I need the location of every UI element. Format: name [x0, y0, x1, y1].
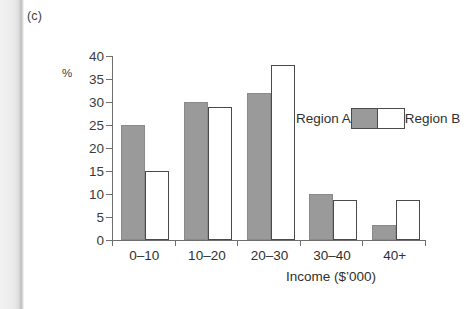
bar-region-b-2 — [271, 65, 295, 240]
bar-series-container — [113, 56, 425, 240]
y-tick-label: 10 — [89, 187, 104, 202]
bar-region-b-3 — [333, 200, 357, 240]
x-tick-label-1: 10–20 — [188, 248, 226, 263]
y-tick-mark — [106, 217, 112, 218]
y-tick-mark — [106, 56, 112, 57]
bar-region-b-4 — [396, 200, 420, 240]
legend-swatch-region-b — [378, 108, 405, 129]
bar-region-a-1 — [184, 102, 208, 240]
bar-region-a-2 — [247, 93, 271, 240]
y-tick-label: 25 — [89, 118, 104, 133]
x-tick-mark — [175, 240, 176, 246]
legend-label-region-b: Region B — [405, 111, 461, 126]
bar-chart-figure: (c) % 0510152025303540 0–1010–2020–3030–… — [0, 0, 471, 309]
x-tick-mark — [237, 240, 238, 246]
x-tick-label-0: 0–10 — [129, 248, 159, 263]
bar-group — [184, 56, 232, 240]
y-tick-label: 30 — [89, 95, 104, 110]
x-tick-label-3: 30–40 — [313, 248, 351, 263]
y-tick-label: 40 — [89, 49, 104, 64]
y-tick-label: 0 — [96, 233, 104, 248]
bar-region-a-3 — [309, 194, 333, 240]
y-tick-label: 35 — [89, 72, 104, 87]
bar-region-b-0 — [145, 171, 169, 240]
x-tick-label-4: 40+ — [383, 248, 406, 263]
x-axis-title: Income ($’000) — [286, 269, 376, 284]
legend-swatch-region-a — [351, 108, 378, 129]
x-tick-mark — [112, 240, 113, 246]
panel-label: (c) — [27, 9, 42, 23]
y-tick-label: 15 — [89, 164, 104, 179]
y-tick-mark — [106, 102, 112, 103]
bar-region-a-4 — [372, 225, 396, 240]
x-tick-mark — [362, 240, 363, 246]
bar-group — [372, 56, 420, 240]
y-tick-mark — [106, 148, 112, 149]
bar-group — [309, 56, 357, 240]
chart-legend: Region A Region B — [296, 108, 460, 129]
bar-group — [121, 56, 169, 240]
x-tick-mark — [300, 240, 301, 246]
x-axis-line — [112, 240, 425, 241]
bar-group — [247, 56, 295, 240]
bar-region-a-0 — [121, 125, 145, 240]
y-tick-mark — [106, 171, 112, 172]
y-axis-title: % — [62, 67, 72, 79]
y-tick-mark — [106, 79, 112, 80]
y-tick-label: 5 — [96, 210, 104, 225]
y-tick-mark — [106, 194, 112, 195]
x-tick-label-2: 20–30 — [251, 248, 289, 263]
bar-region-b-1 — [208, 107, 232, 240]
plot-area: 0510152025303540 0–1010–2020–3030–4040+ — [112, 56, 425, 240]
legend-label-region-a: Region A — [296, 111, 351, 126]
x-tick-mark — [425, 240, 426, 246]
y-tick-label: 20 — [89, 141, 104, 156]
y-tick-mark — [106, 125, 112, 126]
